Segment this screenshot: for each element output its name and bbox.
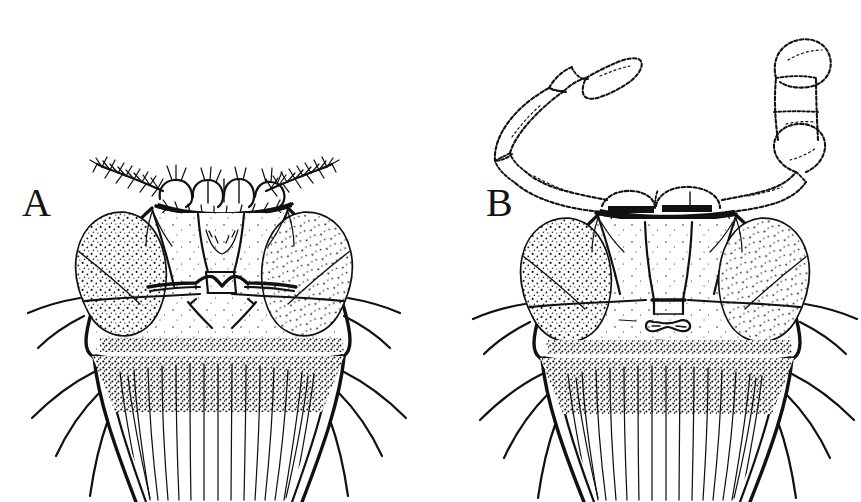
panel-label-b: B (486, 180, 513, 225)
figure-canvas: A (0, 0, 861, 502)
illustration-svg: A (0, 0, 861, 502)
panel-label-a: A (22, 180, 51, 225)
